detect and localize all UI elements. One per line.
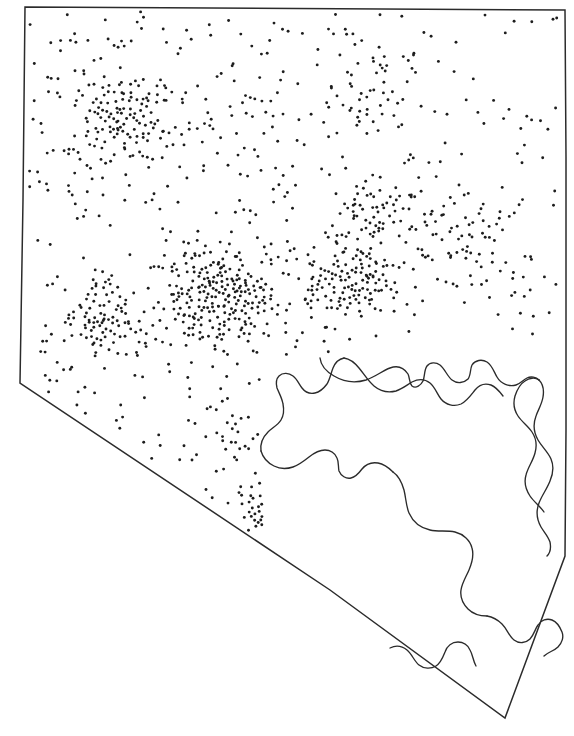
state-boundary-outline [20,7,566,718]
dot-density-map-figure [0,0,574,736]
map-canvas [0,0,574,736]
state-outline-group [20,7,566,718]
